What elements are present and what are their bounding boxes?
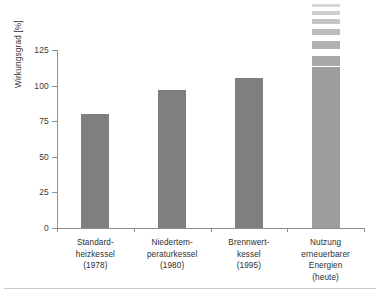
- bar-continuation-segment: [312, 41, 340, 49]
- bar-continuation-segment: [312, 19, 340, 24]
- footer-divider: [4, 288, 376, 289]
- x-axis-label: NutzungerneuerbarerEnergien(heute): [278, 237, 374, 283]
- bar-continuation-segment: [312, 56, 340, 66]
- bar-continuation-segment: [312, 11, 340, 15]
- bar: [81, 114, 109, 228]
- x-tick-mark: [134, 228, 135, 232]
- y-tick-label: 0: [0, 222, 57, 234]
- x-tick-mark: [287, 228, 288, 232]
- y-axis-spine: [57, 50, 58, 229]
- y-tick-label: 50: [0, 151, 57, 163]
- x-tick-mark: [211, 228, 212, 232]
- y-tick-mark: [52, 86, 57, 87]
- bar: [158, 90, 186, 228]
- x-axis-label-line: Energien: [278, 260, 374, 272]
- y-tick-label: 100: [0, 80, 57, 92]
- y-tick-mark: [52, 192, 57, 193]
- y-tick-label: 125: [0, 44, 57, 56]
- y-tick-mark: [52, 157, 57, 158]
- chart-figure: Wirkungsgrad [%] 0255075100125 Standard-…: [0, 0, 380, 297]
- x-tick-mark: [364, 228, 365, 232]
- bar-continuation-segment: [312, 29, 340, 35]
- x-tick-mark: [57, 228, 58, 232]
- x-axis-label-line: Nutzung: [278, 237, 374, 249]
- y-tick-mark: [52, 121, 57, 122]
- bar-continuation-segment: [312, 4, 340, 7]
- y-tick-label: 25: [0, 186, 57, 198]
- y-tick-mark: [52, 50, 57, 51]
- bar: [312, 67, 340, 228]
- x-axis-label-line: erneuerbarer: [278, 249, 374, 261]
- y-tick-label: 75: [0, 115, 57, 127]
- bar: [235, 78, 263, 228]
- x-axis-label-line: (heute): [278, 272, 374, 284]
